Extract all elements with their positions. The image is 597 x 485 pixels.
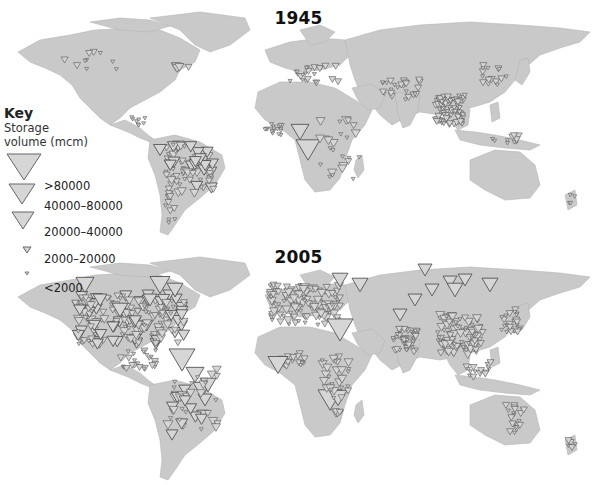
reservoir-marker: [147, 357, 151, 360]
legend-label: <2000: [44, 281, 83, 295]
triangle-marker-icon-xs: [4, 270, 44, 300]
reservoir-marker: [312, 73, 316, 76]
reservoir-marker: [154, 349, 158, 352]
landmass: [470, 150, 540, 200]
reservoir-marker: [485, 362, 489, 365]
reservoir-marker: [185, 64, 192, 70]
reservoir-marker: [143, 117, 147, 120]
legend-row-20000-40000: 20000–40000: [4, 210, 134, 250]
landmass: [455, 375, 540, 395]
landmass: [490, 102, 500, 122]
legend-label: 2000–20000: [44, 252, 116, 266]
reservoir-marker: [351, 177, 355, 180]
reservoir-marker: [174, 340, 181, 346]
legend-subtitle-line2: volume (mcm): [4, 135, 124, 149]
reservoir-marker: [178, 330, 190, 340]
reservoir-marker: [125, 355, 132, 361]
reservoir-marker: [77, 342, 81, 345]
reservoir-marker: [482, 371, 489, 377]
panel-title-1945: 1945: [0, 8, 597, 28]
reservoir-marker: [277, 319, 284, 325]
reservoir-marker: [303, 321, 307, 324]
landmass: [565, 190, 577, 210]
landmass: [255, 82, 372, 192]
legend-subtitle-line1: Storage: [4, 121, 124, 135]
triangle-marker-icon-m: [4, 210, 44, 250]
reservoir-marker: [142, 122, 146, 125]
reservoir-marker: [284, 317, 293, 325]
legend-label: 20000–40000: [44, 225, 123, 239]
reservoir-marker: [316, 323, 320, 326]
reservoir-marker: [321, 321, 328, 327]
landmass: [354, 400, 364, 423]
landmass: [255, 327, 372, 437]
legend: Key Storage volume (mcm) >80000 40000–80…: [4, 105, 124, 149]
legend-title: Key: [4, 105, 124, 121]
landmass: [455, 130, 540, 150]
reservoir-marker: [335, 79, 342, 85]
legend-row-lt2000: <2000: [4, 270, 134, 300]
reservoir-marker: [279, 129, 283, 132]
reservoir-marker: [145, 353, 149, 356]
